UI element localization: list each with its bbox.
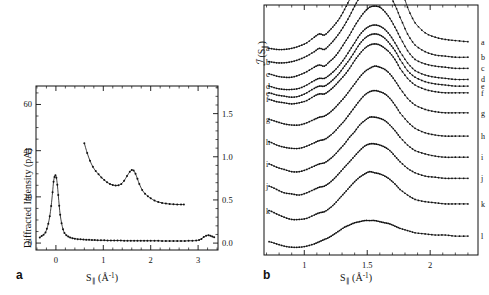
data-point bbox=[384, 11, 386, 13]
data-point bbox=[381, 145, 383, 147]
data-point bbox=[382, 174, 384, 176]
data-point bbox=[324, 77, 326, 79]
data-point bbox=[324, 49, 326, 51]
data-point bbox=[332, 79, 334, 81]
data-point bbox=[459, 203, 461, 205]
data-point bbox=[296, 75, 298, 77]
data-point bbox=[418, 86, 420, 88]
data-point bbox=[394, 59, 396, 61]
data-point bbox=[59, 214, 61, 216]
data-point bbox=[306, 145, 308, 147]
data-point bbox=[320, 139, 322, 141]
data-point bbox=[392, 77, 394, 79]
data-point bbox=[364, 94, 366, 96]
data-point bbox=[322, 162, 324, 164]
data-point bbox=[381, 118, 383, 120]
data-point bbox=[448, 234, 450, 236]
data-point bbox=[339, 197, 341, 199]
panel-a-xaxis-top bbox=[37, 86, 217, 91]
data-point bbox=[454, 56, 456, 58]
data-point bbox=[276, 189, 278, 191]
data-point bbox=[396, 52, 398, 54]
data-point bbox=[366, 9, 368, 11]
data-point bbox=[276, 94, 278, 96]
data-point bbox=[352, 45, 354, 47]
data-point bbox=[314, 36, 316, 38]
data-point bbox=[283, 49, 285, 51]
data-point bbox=[448, 56, 450, 58]
data-point bbox=[389, 52, 391, 54]
data-point bbox=[325, 210, 327, 212]
data-point bbox=[322, 211, 324, 213]
data-point bbox=[412, 102, 414, 104]
data-point bbox=[283, 102, 285, 104]
data-point bbox=[350, 87, 352, 89]
data-point bbox=[371, 143, 373, 145]
data-point bbox=[463, 156, 465, 158]
data-point bbox=[293, 194, 295, 196]
data-point bbox=[317, 140, 319, 142]
data-point bbox=[308, 54, 310, 56]
data-point bbox=[402, 163, 404, 165]
data-point bbox=[293, 96, 295, 98]
data-point bbox=[454, 112, 456, 114]
tick-label: 0 bbox=[54, 255, 58, 265]
data-point bbox=[330, 88, 332, 90]
data-point bbox=[361, 98, 363, 100]
data-point bbox=[345, 55, 347, 57]
data-point bbox=[404, 165, 406, 167]
data-point bbox=[409, 169, 411, 171]
data-point bbox=[407, 194, 409, 196]
data-point bbox=[322, 65, 324, 67]
data-point bbox=[459, 56, 461, 58]
data-point bbox=[208, 234, 210, 236]
data-point bbox=[271, 241, 273, 243]
data-point bbox=[55, 177, 57, 179]
data-point bbox=[392, 181, 394, 183]
data-point bbox=[311, 38, 313, 40]
data-point bbox=[332, 132, 334, 134]
data-point bbox=[379, 44, 381, 46]
data-point bbox=[153, 200, 155, 202]
data-point bbox=[335, 106, 337, 108]
data-point bbox=[39, 237, 41, 239]
data-point bbox=[273, 100, 275, 102]
data-point bbox=[283, 62, 285, 64]
data-point bbox=[329, 236, 331, 238]
data-point bbox=[404, 118, 406, 120]
data-point bbox=[136, 240, 138, 242]
data-point bbox=[377, 44, 379, 46]
data-point bbox=[303, 146, 305, 148]
data-point bbox=[418, 200, 420, 202]
data-point bbox=[444, 77, 446, 79]
data-point bbox=[107, 240, 109, 242]
data-point bbox=[325, 184, 327, 186]
data-point bbox=[319, 64, 321, 66]
data-point bbox=[372, 90, 374, 92]
data-point bbox=[434, 176, 436, 178]
data-point bbox=[276, 213, 278, 215]
data-point bbox=[431, 53, 433, 55]
data-point bbox=[286, 124, 288, 126]
data-point bbox=[301, 147, 303, 149]
panel-a-specular-scan-low-line bbox=[40, 175, 214, 241]
data-point bbox=[325, 33, 327, 35]
data-point bbox=[301, 194, 303, 196]
data-point bbox=[376, 117, 378, 119]
data-point bbox=[296, 171, 298, 173]
data-point bbox=[58, 205, 60, 207]
data-point bbox=[330, 81, 332, 83]
data-point bbox=[467, 235, 469, 237]
data-point bbox=[344, 96, 346, 98]
data-point bbox=[352, 53, 354, 55]
data-point bbox=[371, 25, 373, 27]
data-point bbox=[384, 120, 386, 122]
data-point bbox=[431, 76, 433, 78]
data-point bbox=[382, 68, 384, 70]
data-point bbox=[337, 150, 339, 152]
data-point bbox=[444, 135, 446, 137]
data-point bbox=[345, 5, 347, 7]
data-point bbox=[382, 146, 384, 148]
data-point bbox=[428, 90, 430, 92]
data-point bbox=[54, 174, 56, 176]
